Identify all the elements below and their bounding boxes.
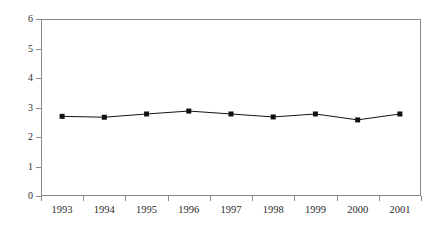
data-point [60,114,65,119]
data-point [271,114,276,119]
data-point [355,117,360,122]
data-point [102,115,107,120]
line-chart: 0123456 19931994199519961997199819992000… [0,0,442,231]
data-point [144,111,149,116]
data-point [313,111,318,116]
data-point [397,111,402,116]
series-markers [60,109,403,123]
data-point [229,111,234,116]
series-layer [0,0,442,231]
data-point [186,109,191,114]
